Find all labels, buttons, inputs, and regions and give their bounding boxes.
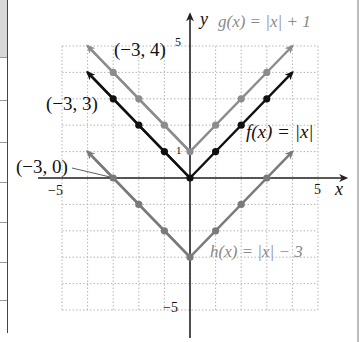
series-f-point [238,122,245,129]
y-tick-neg5: −5 [163,301,178,315]
x-tick-neg5: −5 [48,184,63,198]
y-axis-label: y [200,10,208,28]
series-h-point [110,174,117,181]
series-g-point [110,69,117,76]
series-g-point [263,69,270,76]
annotation-f-point: (−3, 3) [46,94,98,113]
series-f-point [263,95,270,102]
x-axis-label: x [335,180,343,198]
x-tick-5: 5 [314,183,321,197]
series-g-point [212,122,219,129]
series-g-point [161,122,168,129]
annotation-g-point: (−3, 4) [114,40,166,59]
series-f-point [212,148,219,155]
series-g-point [186,148,193,155]
series-h-point [186,254,193,261]
series-f-point [186,174,193,181]
series-f-point [110,95,117,102]
series-g-point [238,95,245,102]
series-f-point [135,122,142,129]
legend-h-label: h(x) = |x| − 3 [210,243,303,260]
annotation-h-point: (−3, 0) [16,157,68,176]
series-h-point [161,227,168,234]
y-tick-5: 5 [175,36,181,48]
series-h-point [263,174,270,181]
legend-g-label: g(x) = |x| + 1 [218,13,311,30]
series-h-point [238,201,245,208]
series-f-point [161,148,168,155]
series-g-point [135,95,142,102]
y-tick-1: 1 [176,145,182,156]
series-h-point [135,201,142,208]
legend-f-label: f(x) = |x| [246,122,314,141]
series-h-point [212,227,219,234]
